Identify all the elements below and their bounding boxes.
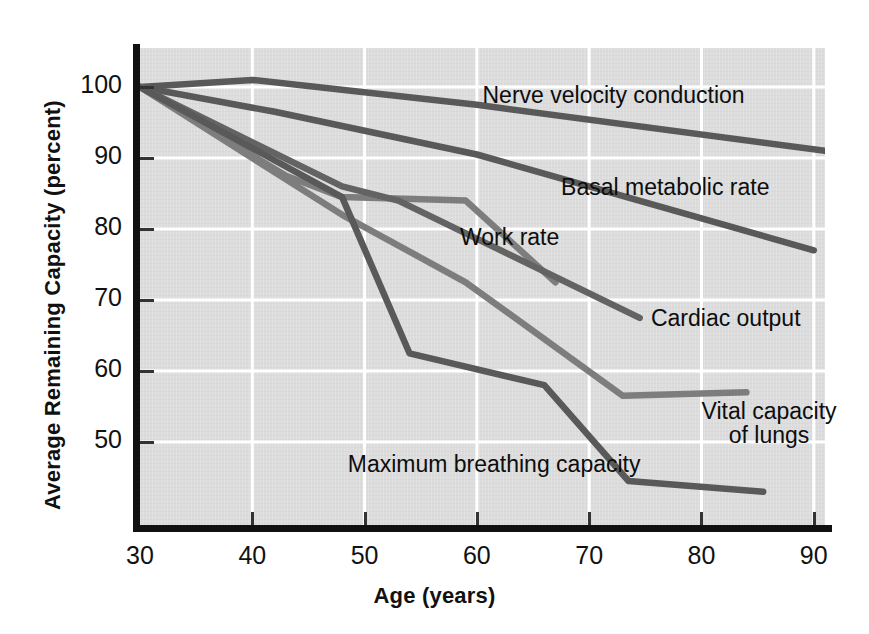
- y-tick: [140, 157, 154, 160]
- series-label-4: Vital capacity of lungs: [701, 399, 836, 447]
- y-axis-line: [133, 44, 140, 532]
- x-tick-label: 80: [661, 541, 741, 570]
- series-label-2: Work rate: [460, 225, 559, 249]
- y-tick: [140, 441, 154, 444]
- y-axis-title: Average Remaining Capacity (percent): [40, 100, 66, 510]
- y-tick-label: 100: [52, 70, 122, 99]
- x-tick-label: 70: [549, 541, 629, 570]
- x-tick-label: 30: [100, 541, 180, 570]
- chart-figure: 506070809010030405060708090 Nerve veloci…: [0, 0, 869, 634]
- series-label-1: Basal metabolic rate: [561, 175, 769, 199]
- y-tick: [140, 228, 154, 231]
- x-axis-line: [133, 525, 832, 532]
- x-tick-label: 60: [437, 541, 517, 570]
- x-tick: [364, 512, 367, 525]
- x-tick-label: 50: [325, 541, 405, 570]
- x-tick: [813, 512, 816, 525]
- series-label-0: Nerve velocity conduction: [483, 83, 745, 107]
- series-label-3: Cardiac output: [651, 306, 801, 330]
- x-tick-label: 90: [774, 541, 854, 570]
- x-tick: [251, 512, 254, 525]
- x-axis-title: Age (years): [0, 583, 869, 609]
- y-tick: [140, 86, 154, 89]
- x-tick: [700, 512, 703, 525]
- x-tick-label: 40: [212, 541, 292, 570]
- series-line-3: [140, 87, 640, 318]
- y-tick: [140, 299, 154, 302]
- series-label-5: Maximum breathing capacity: [348, 452, 641, 476]
- x-tick: [476, 512, 479, 525]
- y-tick: [140, 370, 154, 373]
- x-tick: [588, 512, 591, 525]
